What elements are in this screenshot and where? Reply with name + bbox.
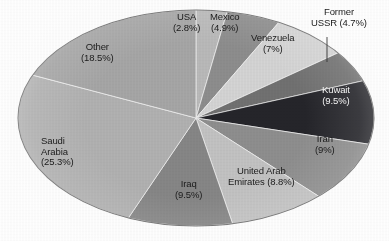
pie-label-iran-line-1: Iran xyxy=(315,134,335,145)
pie-label-iraq: Iraq(9.5%) xyxy=(175,179,202,200)
pie-label-iraq-line-1: Iraq xyxy=(175,179,202,190)
pie-label-mexico-line-1: Mexico xyxy=(210,12,240,23)
pie-label-kuwait-line-1: Kuwait xyxy=(322,85,350,96)
pie-label-saudi-arabia: SaudiArabia(25.3%) xyxy=(41,136,74,168)
pie-label-kuwait: Kuwait(9.5%) xyxy=(322,85,350,106)
pie-label-other: Other(18.5%) xyxy=(81,42,114,63)
pie-label-venezuela-line-2: (7%) xyxy=(251,44,294,55)
pie-label-usa: USA(2.8%) xyxy=(173,12,200,33)
pie-chart-canvas xyxy=(0,0,389,241)
pie-label-usa-line-1: USA xyxy=(173,12,200,23)
pie-label-usa-line-2: (2.8%) xyxy=(173,23,200,34)
pie-label-other-line-2: (18.5%) xyxy=(81,53,114,64)
pie-label-other-line-1: Other xyxy=(81,42,114,53)
pie-label-saudi-arabia-line-3: (25.3%) xyxy=(41,157,74,168)
pie-label-venezuela: Venezuela(7%) xyxy=(251,33,294,54)
pie-label-mexico: Mexico(4.9%) xyxy=(210,12,240,33)
pie-label-iraq-line-2: (9.5%) xyxy=(175,190,202,201)
pie-label-former-ussr-line-1: Former xyxy=(311,7,367,18)
pie-label-united-arab-emirates: United ArabEmirates (8.8%) xyxy=(228,166,295,187)
pie-label-united-arab-emirates-line-1: United Arab xyxy=(228,166,295,177)
pie-label-former-ussr-line-2: USSR (4.7%) xyxy=(311,18,367,29)
pie-label-iran-line-2: (9%) xyxy=(315,145,335,156)
pie-label-former-ussr: FormerUSSR (4.7%) xyxy=(311,7,367,28)
pie-label-mexico-line-2: (4.9%) xyxy=(210,23,240,34)
pie-label-venezuela-line-1: Venezuela xyxy=(251,33,294,44)
pie-label-iran: Iran(9%) xyxy=(315,134,335,155)
pie-label-united-arab-emirates-line-2: Emirates (8.8%) xyxy=(228,177,295,188)
pie-label-saudi-arabia-line-1: Saudi xyxy=(41,136,74,147)
pie-chart-figure: USA(2.8%)Mexico(4.9%)Venezuela(7%)Former… xyxy=(0,0,389,241)
pie-label-kuwait-line-2: (9.5%) xyxy=(322,96,350,107)
